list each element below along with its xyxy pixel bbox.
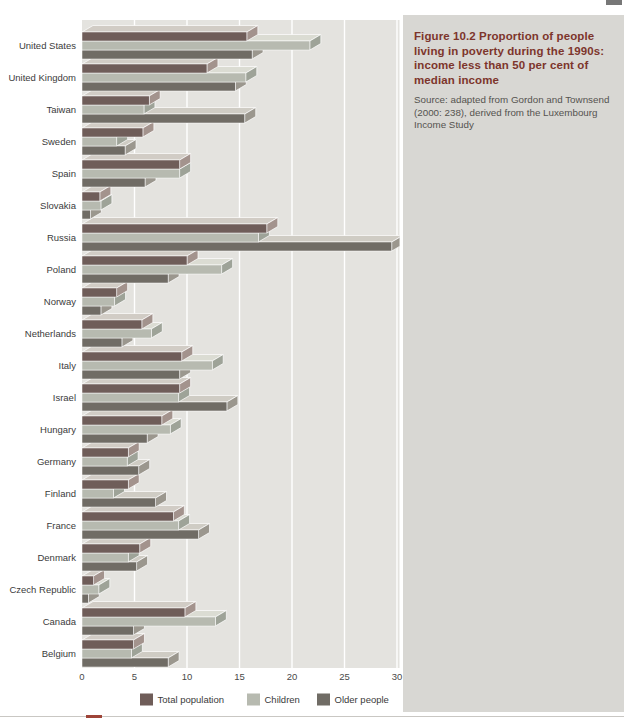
bar-total-population-united-kingdom (82, 64, 207, 73)
country-label-belgium: Belgium (42, 648, 76, 659)
bar-total-population-israel (82, 384, 180, 393)
bar-children-denmark (82, 553, 128, 562)
bar-older-people-netherlands (82, 338, 122, 347)
bar-older-people-hungary (82, 434, 147, 443)
legend-label-older-people: Older people (335, 694, 389, 705)
bar-total-population-taiwan (82, 96, 149, 105)
bar-children-finland (82, 489, 114, 498)
bar-total-population-sweden (82, 128, 143, 137)
figure-source: Source: adapted from Gordon and Townsend… (414, 94, 612, 132)
legend-label-children: Children (265, 694, 300, 705)
bar-total-population-netherlands (82, 320, 142, 329)
bar-children-russia (82, 233, 258, 242)
country-label-france: France (46, 520, 76, 531)
bar-total-population-canada (82, 608, 185, 617)
x-tick-label-10: 10 (182, 671, 193, 682)
x-tick-label-25: 25 (339, 671, 350, 682)
bar-children-france (82, 521, 179, 530)
country-label-norway: Norway (44, 296, 76, 307)
bar-children-taiwan (82, 105, 144, 114)
bar-older-people-canada (82, 626, 133, 635)
bar-children-belgium (82, 649, 131, 658)
x-tick-label-5: 5 (132, 671, 137, 682)
bar-children-spain (82, 169, 180, 178)
bar-top-total-population-united-states (82, 26, 258, 33)
bar-older-people-italy (82, 370, 180, 379)
bar-older-people-sweden (82, 146, 125, 155)
bar-total-population-italy (82, 352, 182, 361)
country-label-hungary: Hungary (40, 424, 76, 435)
country-label-czech-republic: Czech Republic (9, 584, 76, 595)
bar-children-israel (82, 393, 179, 402)
bar-older-people-czech-republic (82, 594, 88, 603)
country-label-russia: Russia (47, 232, 77, 243)
legend-swatch-total-population (140, 694, 153, 706)
country-label-israel: Israel (53, 392, 76, 403)
x-tick-label-20: 20 (287, 671, 298, 682)
country-label-canada: Canada (43, 616, 77, 627)
country-label-sweden: Sweden (42, 136, 76, 147)
country-label-united-states: United States (19, 40, 76, 51)
legend-swatch-older-people (317, 694, 330, 706)
bar-total-population-slovakia (82, 192, 100, 201)
bar-children-hungary (82, 425, 170, 434)
book-page: United StatesUnited KingdomTaiwanSwedenS… (0, 0, 624, 725)
bar-total-population-spain (82, 160, 180, 169)
bar-total-population-denmark (82, 544, 140, 553)
country-label-poland: Poland (46, 264, 76, 275)
bar-total-population-belgium (82, 640, 133, 649)
bar-older-people-norway (82, 306, 101, 315)
x-tick-label-0: 0 (79, 671, 84, 682)
bar-older-people-france (82, 530, 199, 539)
bar-older-people-united-states (82, 50, 252, 59)
country-label-denmark: Denmark (37, 552, 76, 563)
bar-children-united-kingdom (82, 73, 246, 82)
country-label-united-kingdom: United Kingdom (8, 72, 76, 83)
bar-older-people-germany (82, 466, 139, 475)
bar-older-people-denmark (82, 562, 137, 571)
country-label-italy: Italy (59, 360, 77, 371)
bar-total-population-france (82, 512, 173, 521)
bar-older-people-slovakia (82, 210, 90, 219)
bar-total-population-poland (82, 256, 187, 265)
bar-total-population-germany (82, 448, 128, 457)
bar-children-sweden (82, 137, 117, 146)
x-tick-label-30: 30 (392, 671, 403, 682)
bar-children-germany (82, 457, 127, 466)
country-label-finland: Finland (45, 488, 76, 499)
bar-total-population-finland (82, 480, 128, 489)
bar-children-italy (82, 361, 212, 370)
bar-total-population-norway (82, 288, 117, 297)
bar-children-netherlands (82, 329, 151, 338)
bar-older-people-finland (82, 498, 156, 507)
bar-older-people-poland (82, 274, 168, 283)
figure-title: Figure 10.2 Proportion of people living … (414, 29, 612, 87)
x-tick-label-15: 15 (234, 671, 245, 682)
legend-swatch-children (247, 694, 260, 706)
country-label-netherlands: Netherlands (25, 328, 76, 339)
bar-total-population-united-states (82, 32, 247, 41)
page-bottom-red-mark (86, 715, 102, 718)
bar-top-total-population-russia (82, 218, 278, 225)
country-label-spain: Spain (52, 168, 76, 179)
bar-children-norway (82, 297, 115, 306)
bar-children-slovakia (82, 201, 101, 210)
bar-children-canada (82, 617, 215, 626)
country-label-slovakia: Slovakia (40, 200, 77, 211)
bar-children-poland (82, 265, 222, 274)
country-label-taiwan: Taiwan (46, 104, 76, 115)
page-corner-mark (606, 0, 622, 5)
figure-caption-panel: Figure 10.2 Proportion of people living … (403, 15, 624, 712)
bar-children-united-states (82, 41, 310, 50)
bar-total-population-hungary (82, 416, 162, 425)
bar-older-people-taiwan (82, 114, 245, 123)
bar-older-people-belgium (82, 658, 168, 667)
bar-older-people-israel (82, 402, 227, 411)
bar-older-people-united-kingdom (82, 82, 235, 91)
bar-children-czech-republic (82, 585, 99, 594)
legend-label-total-population: Total population (158, 694, 225, 705)
bar-top-total-population-canada (82, 602, 196, 609)
bar-total-population-russia (82, 224, 267, 233)
bar-total-population-czech-republic (82, 576, 94, 585)
bar-older-people-russia (82, 242, 392, 251)
